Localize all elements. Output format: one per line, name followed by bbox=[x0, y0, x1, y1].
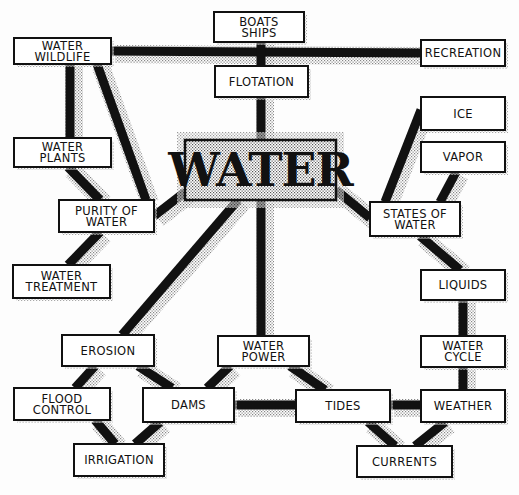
center-label: WATER bbox=[167, 143, 354, 197]
node-label: CURRENTS bbox=[372, 455, 437, 469]
node-label: SHIPS bbox=[241, 26, 276, 40]
node-ice: ICE bbox=[421, 97, 508, 133]
node-water-center: WATER bbox=[167, 132, 354, 208]
node-label: CYCLE bbox=[444, 350, 481, 364]
node-label: WATER bbox=[86, 215, 128, 229]
node-cycle: WATERCYCLE bbox=[421, 336, 508, 370]
node-liquids: LIQUIDS bbox=[421, 270, 508, 303]
node-label: PLANTS bbox=[39, 151, 85, 165]
edge-shadows bbox=[72, 45, 467, 449]
node-wildlife: WATERWILDLIFE bbox=[14, 38, 114, 67]
node-label: EROSION bbox=[81, 344, 136, 358]
node-plants: WATERPLANTS bbox=[14, 138, 114, 170]
node-irrigation: IRRIGATION bbox=[74, 444, 167, 479]
node-label: DAMS bbox=[171, 398, 206, 412]
node-flood: FLOODCONTROL bbox=[14, 388, 113, 423]
node-flotation: FLOTATION bbox=[215, 66, 311, 100]
water-concept-map: WATERBOATSSHIPSWATERWILDLIFERECREATIONFL… bbox=[0, 0, 519, 495]
node-treatment: WATERTREATMENT bbox=[13, 265, 113, 301]
node-tides: TIDES bbox=[296, 390, 393, 425]
edges bbox=[68, 42, 463, 446]
node-boats: BOATSSHIPS bbox=[214, 12, 307, 45]
node-label: FLOTATION bbox=[229, 75, 295, 89]
node-label: TREATMENT bbox=[25, 280, 98, 294]
node-label: WEATHER bbox=[434, 399, 493, 413]
node-vapor: VAPOR bbox=[421, 142, 508, 175]
node-dams: DAMS bbox=[143, 388, 237, 425]
node-label: LIQUIDS bbox=[439, 278, 488, 292]
node-label: VAPOR bbox=[443, 150, 483, 164]
node-label: WATER bbox=[394, 218, 436, 232]
node-label: ICE bbox=[453, 107, 473, 121]
node-label: CONTROL bbox=[33, 403, 92, 417]
node-label: TIDES bbox=[324, 399, 360, 413]
node-power: WATERPOWER bbox=[218, 336, 312, 369]
edge-shadow-states-ice bbox=[389, 113, 425, 205]
node-purity: PURITY OFWATER bbox=[59, 200, 157, 235]
node-states: STATES OFWATER bbox=[370, 202, 463, 239]
node-label: RECREATION bbox=[425, 46, 502, 60]
node-weather: WEATHER bbox=[421, 390, 508, 425]
node-recreation: RECREATION bbox=[421, 40, 508, 69]
edge-wildlife-purity bbox=[97, 64, 146, 200]
edge-wildlife-recreation bbox=[111, 51, 421, 53]
node-label: WILDLIFE bbox=[34, 50, 90, 64]
node-currents: CURRENTS bbox=[357, 446, 455, 480]
node-erosion: EROSION bbox=[62, 335, 157, 369]
node-label: POWER bbox=[241, 350, 285, 364]
node-label: IRRIGATION bbox=[84, 453, 154, 467]
